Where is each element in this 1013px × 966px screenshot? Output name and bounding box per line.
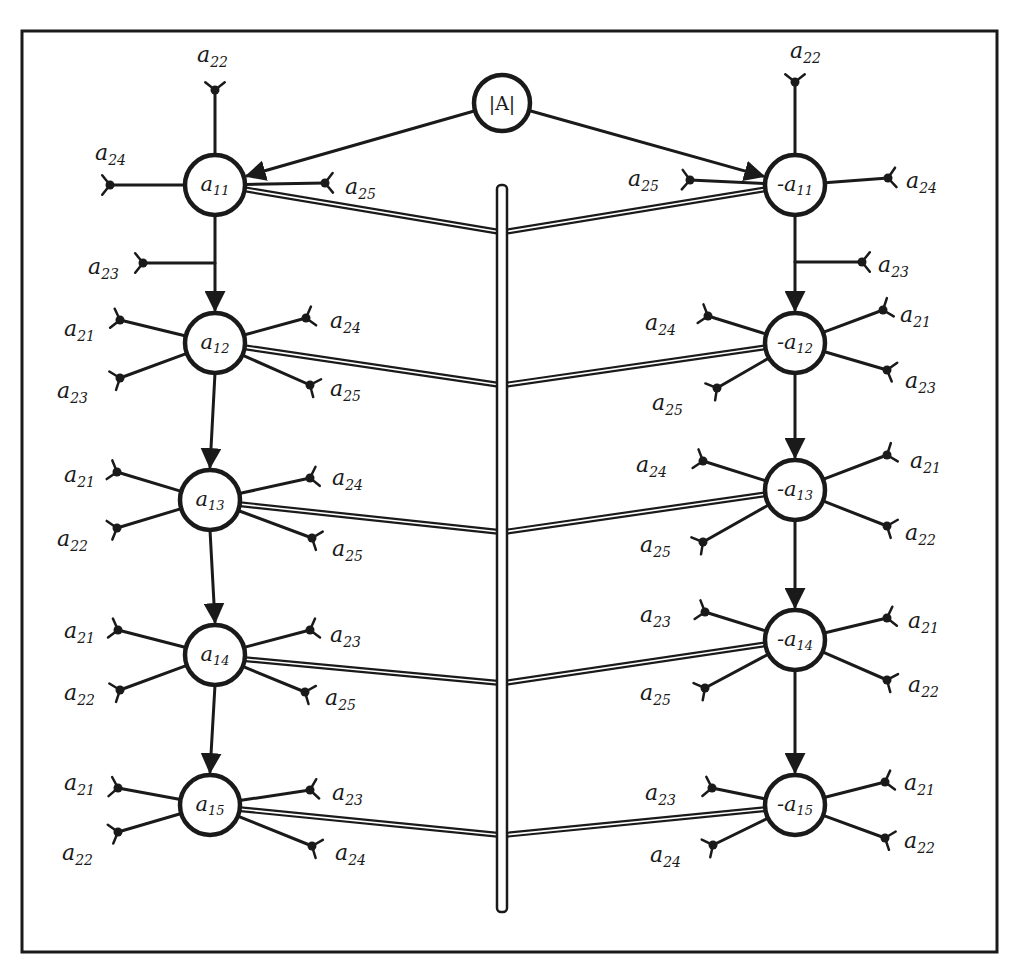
leaf-a13-a24: a24 [239,465,363,494]
leaf-edge [240,790,310,801]
leaf--a13-a22: a22 [823,501,936,548]
leaf-label-base: a [628,166,641,191]
leaf-label-base: a [64,316,77,341]
leaf--a12-a24: a24 [645,304,766,338]
leaf-edge [823,652,887,680]
leaf-label-subscript: 22 [209,54,228,70]
leaf-fork-icon [109,777,118,796]
leaf-label-subscript: 24 [657,322,676,338]
leaf-label-base: a [330,622,343,647]
leaf--a11-a22: a22 [785,38,821,155]
leaf-edge [824,618,887,633]
leaf--a12-a23: a23 [824,351,936,396]
leaf-label: a24 [906,168,937,196]
leaf-edge [825,178,888,183]
node-a12: a12 [185,313,245,373]
leaf-label-base: a [900,302,913,327]
leaf-fork-icon [108,825,118,844]
leaf-edge [823,501,887,526]
node-neg-a13: -a13 [765,460,825,520]
node-label-base: a [200,172,213,196]
leaf-label: a23 [878,252,909,280]
leaf-label: a22 [197,42,228,70]
leaf-a12-a23: a23 [57,353,187,406]
leaf-label-base: a [908,608,921,633]
leaf-edge [238,510,312,538]
node-a11: a11 [185,155,245,215]
leaf-label-subscript: 23 [342,634,361,650]
leaf-fork-icon [702,777,712,796]
leaf-edge [118,788,180,800]
leaf-edge [824,782,885,798]
leaf-edge [243,666,305,692]
leaf-label: a25 [330,376,361,404]
leaf-label-subscript: 22 [917,532,936,548]
node-label-subscript: 11 [797,183,814,198]
leaf-label-base: a [332,536,345,561]
leaf-a15-a23: a23 [240,779,363,808]
leaf-fork-icon [107,460,117,479]
leaf-a13-a22: a22 [57,509,181,554]
leaf--a13-a24: a24 [636,449,766,481]
leaf-edge [238,816,312,846]
leaf-label-base: a [905,520,918,545]
leaf-label-subscript: 24 [107,152,126,168]
node-label-base: -a [777,172,797,196]
node-neg-a11: -a11 [765,155,825,215]
leaf-a14-a21: a21 [64,618,186,648]
node-label-subscript: 14 [797,638,814,653]
leaf-label: a21 [900,302,931,330]
leaf-a12-a21: a21 [64,309,186,344]
leaf-label-base: a [332,465,345,490]
node-label-base: -a [777,792,797,816]
leaf-label-base: a [95,140,108,165]
leaf-a14-a22: a22 [64,665,187,708]
leaf-label: a24 [645,310,676,338]
bar-join-inner-a12 [243,347,500,385]
leaf-label: a23 [88,254,119,282]
leaf-label-base: a [64,462,77,487]
leaf-label-base: a [325,685,338,710]
leaf-label-subscript: 21 [76,630,95,646]
leaf-label: a25 [652,390,683,418]
leaf-label-subscript: 23 [69,390,88,406]
leaf--a14-a21: a21 [824,607,939,636]
leaf-a11-a23: a23 [88,253,215,282]
bar-join-inner--a13 [504,494,767,532]
leaf-label-base: a [64,770,77,795]
leaf-label-subscript: 25 [652,544,671,560]
leaf-label-base: a [640,532,653,557]
leaf-label-subscript: 24 [918,180,937,196]
leaf-label-subscript: 24 [344,477,363,493]
leaf-fork-icon [108,619,118,638]
leaf-label-base: a [645,780,658,805]
node-label-base: a [200,330,213,354]
node-neg-a15: -a15 [765,775,825,835]
leaf-edge [118,813,181,832]
node-label-subscript: 11 [213,183,230,198]
leaf-label: a22 [904,828,935,856]
leaf-label-subscript: 24 [347,852,366,868]
leaf-label: a24 [636,452,667,480]
leaf-label: a23 [645,780,676,808]
node-determinant: |A| [474,75,530,131]
leaf-a14-a25: a25 [243,666,356,713]
leaf-edge [242,355,310,385]
leaf-label-base: a [332,780,345,805]
leaf-label-subscript: 22 [802,50,821,66]
leaf-label-subscript: 25 [344,548,363,564]
leaf-label: a21 [908,608,939,636]
leaf-label-subscript: 22 [76,692,95,708]
node-label-subscript: 14 [213,653,230,668]
leaf-label-subscript: 23 [344,792,363,808]
leaf-fork-icon [310,619,320,638]
leaf-label: a23 [640,602,671,630]
bar-join-inner--a15 [504,809,767,835]
leaf-a11-a22: a22 [197,42,228,155]
leaf--a12-a21: a21 [823,298,931,332]
leaf-label-base: a [906,168,919,193]
leaf-label-base: a [904,828,917,853]
leaf-edge [703,505,769,542]
leaf-label-base: a [640,680,653,705]
leaf-label: a25 [640,532,671,560]
